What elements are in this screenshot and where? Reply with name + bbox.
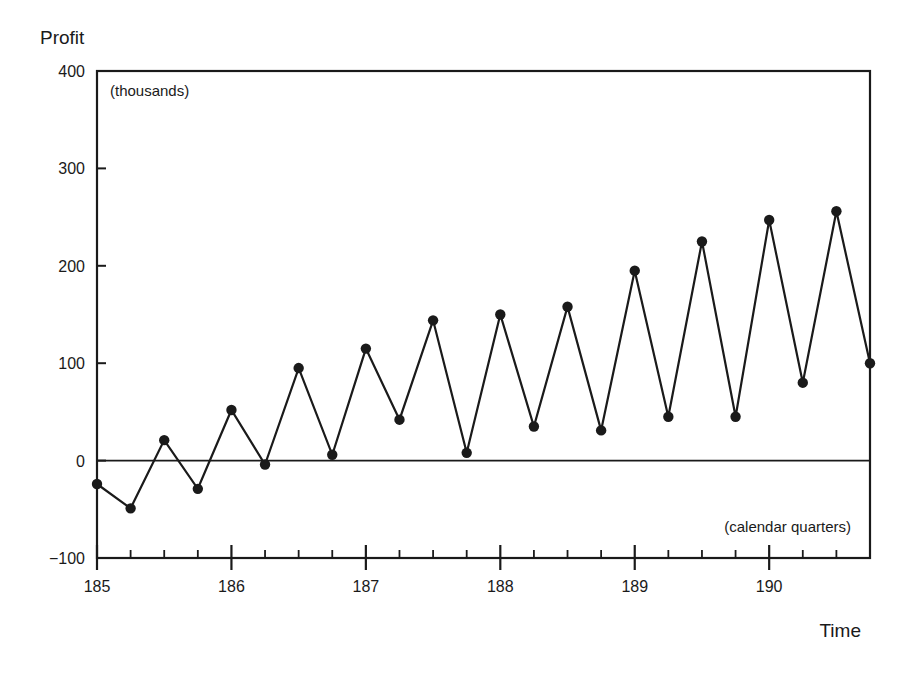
data-point-marker <box>293 363 303 373</box>
data-point-marker <box>159 435 169 445</box>
x-axis-ticks: 185186187188189190 <box>84 545 870 595</box>
y-axis-title: Profit <box>40 27 85 48</box>
y-tick-label: −100 <box>49 550 85 567</box>
data-point-marker <box>865 358 875 368</box>
data-point-marker <box>730 412 740 422</box>
data-point-marker <box>596 425 606 435</box>
data-point-marker <box>562 302 572 312</box>
data-point-marker <box>327 450 337 460</box>
data-point-marker <box>361 343 371 353</box>
x-tick-label: 190 <box>756 578 783 595</box>
data-point-marker <box>428 315 438 325</box>
data-point-marker <box>529 421 539 431</box>
profit-series <box>92 206 875 513</box>
data-point-marker <box>495 309 505 319</box>
data-point-marker <box>193 484 203 494</box>
y-tick-label: 100 <box>58 355 85 372</box>
data-point-marker <box>764 215 774 225</box>
x-tick-label: 188 <box>487 578 514 595</box>
data-point-marker <box>226 405 236 415</box>
x-tick-label: 185 <box>84 578 111 595</box>
data-point-marker <box>663 412 673 422</box>
x-axis-title: Time <box>819 620 861 641</box>
series-line <box>97 211 870 508</box>
data-point-marker <box>461 448 471 458</box>
data-point-marker <box>125 503 135 513</box>
data-point-marker <box>831 206 841 216</box>
x-tick-label: 189 <box>621 578 648 595</box>
y-tick-label: 0 <box>76 453 85 470</box>
data-point-marker <box>798 377 808 387</box>
data-point-marker <box>92 479 102 489</box>
y-tick-label: 300 <box>58 160 85 177</box>
x-axis-units: (calendar quarters) <box>724 518 851 535</box>
data-point-marker <box>260 459 270 469</box>
data-point-marker <box>630 265 640 275</box>
profit-line-chart: Profit (thousands) (calendar quarters) T… <box>0 0 910 681</box>
data-point-marker <box>394 414 404 424</box>
y-tick-label: 200 <box>58 258 85 275</box>
y-tick-label: 400 <box>58 63 85 80</box>
y-axis-units: (thousands) <box>110 82 189 99</box>
x-tick-label: 186 <box>218 578 245 595</box>
x-tick-label: 187 <box>353 578 380 595</box>
data-point-marker <box>697 236 707 246</box>
